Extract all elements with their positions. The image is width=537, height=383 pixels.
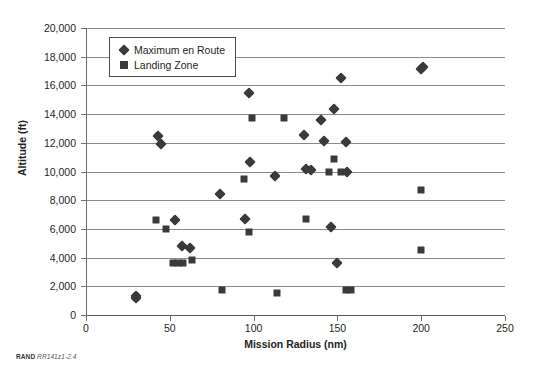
data-point-maximum-en-route <box>214 189 225 200</box>
square-marker-icon <box>117 61 131 69</box>
x-axis-tick <box>170 316 171 321</box>
data-point-landing-zone <box>302 215 309 222</box>
data-point-landing-zone <box>133 294 140 301</box>
y-axis-tick <box>81 28 86 29</box>
y-axis-tick-label: 16,000 <box>16 79 76 91</box>
data-point-maximum-en-route <box>245 157 256 168</box>
x-axis-tick-label: 250 <box>496 322 514 334</box>
y-axis-tick <box>81 258 86 259</box>
y-axis-tick-label: 6,000 <box>16 223 76 235</box>
data-point-landing-zone <box>418 246 425 253</box>
x-axis-title: Mission Radius (nm) <box>86 338 505 350</box>
data-point-maximum-en-route <box>243 88 254 99</box>
y-axis-tick <box>81 286 86 287</box>
gridline <box>86 200 505 201</box>
y-axis-tick-label: 8,000 <box>16 194 76 206</box>
y-axis-tick <box>81 57 86 58</box>
data-point-landing-zone <box>347 286 354 293</box>
y-axis-tick-label: 0 <box>16 309 76 321</box>
y-axis-tick <box>81 229 86 230</box>
data-point-landing-zone <box>180 260 187 267</box>
diamond-marker-icon <box>117 46 131 54</box>
y-axis-tick <box>81 172 86 173</box>
gridline <box>86 172 505 173</box>
data-point-maximum-en-route <box>315 114 326 125</box>
data-point-landing-zone <box>163 225 170 232</box>
caption-reference: RR141z1-2.4 <box>37 353 76 360</box>
data-point-landing-zone <box>280 114 287 121</box>
gridline <box>86 28 505 29</box>
data-point-maximum-en-route <box>332 258 343 269</box>
caption-brand: RAND <box>16 353 35 360</box>
gridline <box>86 85 505 86</box>
x-axis-tick <box>86 316 87 321</box>
legend-label: Landing Zone <box>134 59 198 71</box>
data-point-maximum-en-route <box>335 72 346 83</box>
x-axis-tick-label: 200 <box>412 322 430 334</box>
x-axis-ticks <box>86 316 505 322</box>
legend-label: Maximum en Route <box>134 44 225 56</box>
x-axis-tick-label: 100 <box>245 322 263 334</box>
data-point-landing-zone <box>337 169 344 176</box>
data-point-maximum-en-route <box>169 215 180 226</box>
gridline <box>86 114 505 115</box>
data-point-landing-zone <box>274 290 281 297</box>
data-point-landing-zone <box>218 286 225 293</box>
data-point-maximum-en-route <box>318 136 329 147</box>
data-point-landing-zone <box>326 169 333 176</box>
data-point-landing-zone <box>418 187 425 194</box>
data-point-maximum-en-route <box>328 103 339 114</box>
data-point-landing-zone <box>331 155 338 162</box>
data-point-landing-zone <box>153 217 160 224</box>
y-axis-tick-labels: 02,0004,0006,0008,00010,00012,00014,0001… <box>14 0 76 383</box>
y-axis-title: Altitude (ft) <box>16 120 28 176</box>
y-axis-line <box>86 28 87 316</box>
legend-item-maximum-en-route: Maximum en Route <box>117 42 225 57</box>
gridline <box>86 143 505 144</box>
data-point-maximum-en-route <box>240 213 251 224</box>
y-axis-tick <box>81 143 86 144</box>
x-axis-tick <box>337 316 338 321</box>
gridline <box>86 258 505 259</box>
y-axis-tick-label: 4,000 <box>16 252 76 264</box>
x-axis-tick-label: 0 <box>83 322 89 334</box>
data-point-landing-zone <box>240 176 247 183</box>
x-axis-tick <box>421 316 422 321</box>
data-point-maximum-en-route <box>298 129 309 140</box>
x-axis-tick-label: 150 <box>329 322 347 334</box>
x-axis-tick <box>505 316 506 321</box>
data-point-maximum-en-route <box>325 221 336 232</box>
y-axis-tick-label: 20,000 <box>16 22 76 34</box>
legend-item-landing-zone: Landing Zone <box>117 57 225 72</box>
data-point-landing-zone <box>188 257 195 264</box>
y-axis-tick-label: 2,000 <box>16 280 76 292</box>
figure-caption: RAND RR141z1-2.4 <box>16 353 77 360</box>
y-axis-tick-label: 18,000 <box>16 51 76 63</box>
y-axis-tick <box>81 200 86 201</box>
gridline <box>86 229 505 230</box>
x-axis-tick-label: 50 <box>164 322 176 334</box>
data-point-maximum-en-route <box>340 136 351 147</box>
data-point-landing-zone <box>245 228 252 235</box>
chart-legend: Maximum en Route Landing Zone <box>109 37 236 77</box>
data-point-landing-zone <box>248 114 255 121</box>
y-axis-tick <box>81 85 86 86</box>
y-axis-tick-label: 14,000 <box>16 108 76 120</box>
y-axis-tick <box>81 114 86 115</box>
gridline <box>86 286 505 287</box>
x-axis-tick <box>254 316 255 321</box>
figure-container: 02,0004,0006,0008,00010,00012,00014,0001… <box>0 0 537 383</box>
